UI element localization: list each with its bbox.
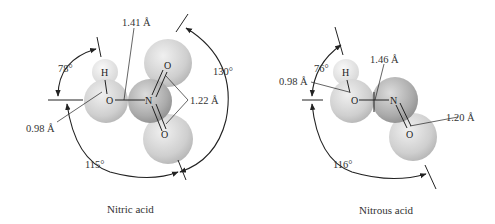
molecular-diagram: H O N O O 78° 1.41 Å 1.22 Å 0.98 Å 115° … — [0, 0, 495, 224]
nitric-bond-o-h: 0.98 Å — [26, 123, 55, 134]
nitrous-acid-molecule: H O N O 76° 0.98 Å 1.46 Å 1.20 Å 116° Ni… — [279, 27, 475, 216]
nitric-angle-78: 78° — [58, 63, 73, 74]
nitric-angle-130: 130° — [213, 66, 233, 77]
nitrous-atom-o-hydroxyl: O — [351, 95, 358, 106]
nitric-atom-n: N — [145, 95, 152, 106]
nitrous-atom-n: N — [390, 95, 397, 106]
nitrous-bond-n-o: 1.20 Å — [446, 112, 475, 123]
nitric-atom-o-bottom: O — [161, 129, 168, 140]
nitrous-angle-76: 76° — [314, 63, 329, 74]
nitric-atom-o-hydroxyl: O — [106, 95, 113, 106]
nitric-acid-molecule: H O N O O 78° 1.41 Å 1.22 Å 0.98 Å 115° … — [26, 14, 233, 215]
nitrous-acid-caption: Nitrous acid — [359, 204, 414, 216]
nitric-atom-h: H — [101, 67, 108, 78]
nitrous-atom-o-terminal: O — [406, 129, 413, 140]
nitric-bond-n-o: 1.22 Å — [190, 95, 219, 106]
nitric-bond-o-n: 1.41 Å — [122, 17, 151, 28]
nitric-acid-caption: Nitric acid — [107, 203, 154, 215]
nitric-angle-115: 115° — [85, 159, 105, 170]
nitrous-atom-h: H — [342, 67, 349, 78]
nitrous-bond-o-n: 1.46 Å — [370, 54, 399, 65]
nitrous-angle-116: 116° — [333, 159, 353, 170]
nitric-atom-o-top: O — [164, 60, 171, 71]
nitrous-bond-o-h: 0.98 Å — [279, 76, 308, 87]
